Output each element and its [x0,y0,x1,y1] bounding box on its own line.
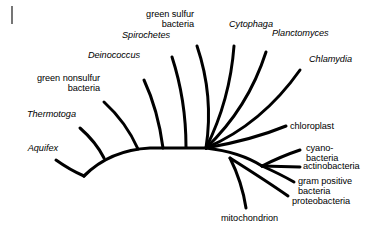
branch-actinobacteria [262,166,300,167]
label-green-nonsulfur-bacteria: green nonsulfur bacteria [18,73,100,94]
branch-cyanobacteria [262,150,300,166]
label-actinobacteria: actinobacteria [303,161,360,171]
label-planctomyces: Planctomyces [272,28,329,38]
label-cytophaga: Cytophaga [229,19,273,29]
branch-gram-positive-bacteria [262,166,294,182]
label-thermotoga: Thermotoga [14,109,76,119]
label-chlamydia: Chlamydia [309,54,352,64]
label-gram-positive-bacteria: gram positive bacteria [298,176,352,197]
label-mitochondrion: mitochondrion [221,213,278,223]
branch-green-nonsulfur-bacteria [104,102,138,149]
label-green-sulfur-bacteria: green sulfur bacteria [138,9,194,30]
label-spirochetes: Spirochetes [104,30,170,40]
label-deinococcus: Deinococcus [66,50,140,60]
label-proteobacteria: proteobacteria [292,196,350,206]
label-chloroplast: chloroplast [290,121,334,131]
branch-thermotoga [80,128,104,158]
branch-aquifex [56,160,84,176]
branch-spirochetes [172,57,186,147]
label-aquifex: Aquifex [4,143,58,153]
phylogenetic-tree-figure: Aquifex Thermotoga green nonsulfur bacte… [0,0,366,235]
branch-deinococcus [144,80,163,148]
branch-green-sulfur-bacteria [197,46,209,148]
